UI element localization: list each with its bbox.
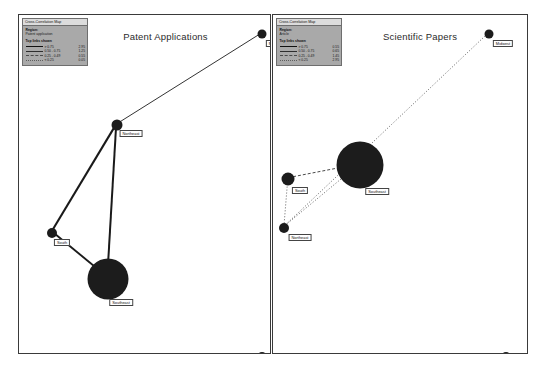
node-label-south: South — [292, 187, 308, 194]
legend-count: 2.95 — [68, 45, 86, 49]
node-midwest[interactable] — [258, 30, 267, 39]
legend-count: 0.55 — [68, 54, 86, 58]
panel-patent-applications: Patent Applications MidwestNortheastSout… — [18, 14, 271, 354]
graph-canvas: MidwestSoutheastSouthNortheastNorth — [273, 15, 527, 353]
legend-range: 0.25 - 0.49 — [299, 54, 322, 58]
legend-box: Cross-Correlation Map Region: Article To… — [276, 18, 342, 66]
node-label-northeast: Northeast — [289, 234, 312, 241]
node-label-southeast: Southeast — [365, 188, 389, 195]
legend-range: > 0.75 — [299, 45, 322, 49]
node-label-south: South — [54, 239, 70, 246]
legend-count: 1.25 — [68, 49, 86, 53]
legend-row: < 0.250.05 — [26, 58, 86, 63]
edge-layer — [273, 15, 527, 352]
edge-midwest-northeast — [116, 34, 260, 124]
legend-line-style-icon — [26, 55, 43, 56]
legend-range: < 0.25 — [45, 58, 68, 62]
node-northeast[interactable] — [279, 223, 289, 233]
legend-header: Cross-Correlation Map — [277, 19, 341, 26]
node-southeast[interactable] — [88, 259, 129, 300]
edge-layer — [19, 15, 270, 352]
legend-rows: > 0.750.550.50 - 0.750.650.25 - 0.491.45… — [280, 44, 340, 62]
legend-field-value: Patent application — [26, 32, 86, 36]
legend-field-value: Article — [280, 32, 340, 36]
graph-canvas: MidwestNortheastSouthSoutheastNorth — [19, 15, 270, 353]
panel-scientific-papers: Scientific Papers MidwestSoutheastSouthN… — [272, 14, 528, 354]
legend-section-title: Top links shown — [26, 39, 86, 43]
legend-count: 0.05 — [68, 58, 86, 62]
node-label-northeast: Northeast — [120, 130, 143, 137]
legend-body: Region: Patent application Top links sho… — [23, 26, 87, 64]
cross-correlation-map-figure: Patent Applications MidwestNortheastSout… — [0, 0, 546, 368]
node-south[interactable] — [47, 228, 57, 238]
legend-line-style-icon — [26, 60, 43, 61]
legend-line-style-icon — [280, 60, 297, 61]
node-label-midwest: Midwest — [266, 40, 271, 47]
node-south[interactable] — [282, 173, 295, 186]
legend-line-style-icon — [280, 55, 297, 56]
legend-count: 1.45 — [322, 54, 340, 58]
legend-range: 0.25 - 0.49 — [45, 54, 68, 58]
legend-range: 0.50 - 0.75 — [45, 49, 68, 53]
legend-count: 0.55 — [322, 45, 340, 49]
edge-northeast-south — [52, 124, 116, 231]
node-north[interactable] — [502, 352, 510, 354]
legend-line-style-icon — [26, 51, 43, 52]
legend-range: < 0.25 — [299, 58, 322, 62]
legend-body: Region: Article Top links shown > 0.750.… — [277, 26, 341, 64]
legend-count: 2.95 — [322, 58, 340, 62]
legend-row: < 0.252.95 — [280, 58, 340, 63]
legend-range: > 0.75 — [45, 45, 68, 49]
edge-northeast-southeast — [107, 124, 116, 277]
legend-rows: > 0.752.950.50 - 0.751.250.25 - 0.490.55… — [26, 44, 86, 62]
node-midwest[interactable] — [485, 30, 494, 39]
legend-range: 0.50 - 0.75 — [299, 49, 322, 53]
node-north[interactable] — [258, 352, 266, 354]
node-label-southeast: Southeast — [109, 299, 133, 306]
legend-line-style-icon — [280, 51, 297, 52]
node-southeast[interactable] — [337, 142, 384, 189]
legend-box: Cross-Correlation Map Region: Patent app… — [22, 18, 88, 66]
legend-line-style-icon — [26, 46, 43, 47]
legend-count: 0.65 — [322, 49, 340, 53]
legend-line-style-icon — [280, 46, 297, 47]
node-northeast[interactable] — [112, 120, 123, 131]
legend-header: Cross-Correlation Map — [23, 19, 87, 26]
node-label-midwest: Midwest — [493, 40, 513, 47]
legend-section-title: Top links shown — [280, 39, 340, 43]
